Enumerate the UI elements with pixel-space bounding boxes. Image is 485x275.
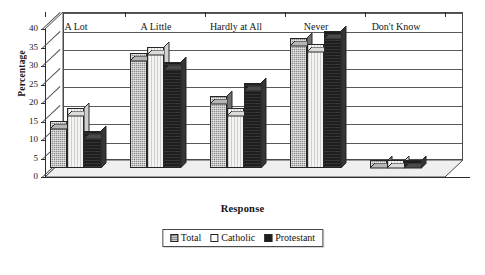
gridline [64, 69, 462, 70]
x-axis-label: Hardly at All [210, 21, 262, 32]
bar-front-face [130, 53, 147, 168]
bar-front-face [84, 131, 101, 168]
bar [84, 131, 101, 168]
legend-label: Total [181, 232, 201, 243]
swatch-catholic-icon [210, 234, 218, 242]
legend-item: Catholic [210, 232, 255, 243]
bar [387, 160, 404, 167]
y-axis-title: Percentage [18, 50, 32, 97]
bar [147, 47, 164, 167]
gridline [64, 87, 462, 88]
legend-label: Catholic [221, 232, 255, 243]
x-axis-label: Don't Know [372, 21, 421, 32]
bar-front-face [370, 160, 387, 167]
swatch-total-icon [170, 234, 178, 242]
y-axis-tick: 10 [41, 140, 46, 141]
bar [370, 160, 387, 167]
bar [290, 38, 307, 168]
x-axis-tick [45, 12, 46, 17]
y-axis-tick: 5 [41, 159, 46, 160]
x-axis-label: A Little [141, 21, 172, 32]
y-axis-tick-label: 35 [29, 42, 38, 52]
x-axis-tick [125, 12, 126, 17]
y-axis-tick-label: 30 [29, 60, 38, 70]
y-axis-tick: 20 [41, 103, 46, 104]
bar-front-face [387, 160, 404, 167]
swatch-protestant-icon [264, 234, 272, 242]
bar [227, 108, 244, 167]
y-axis-tick-label: 25 [29, 79, 38, 89]
y-axis-tick: 30 [41, 66, 46, 67]
x-axis-label: A Lot [64, 21, 87, 32]
bar [307, 44, 324, 168]
y-axis-tick-label: 5 [34, 153, 39, 163]
x-axis-tick [365, 12, 366, 17]
y-axis-tick: 15 [41, 122, 46, 123]
bar [404, 160, 421, 167]
bar-front-face [324, 31, 341, 168]
chart-screenshot: Percentage 0510152025303540 A LotA Littl… [0, 0, 485, 275]
bar [244, 83, 261, 168]
bar [164, 62, 181, 167]
y-axis-tick: 40 [41, 29, 46, 30]
x-axis-label: Never [304, 21, 328, 32]
bar [324, 31, 341, 168]
y-axis-tick-label: 15 [29, 116, 38, 126]
gridline [64, 124, 462, 125]
bar [67, 108, 84, 167]
y-axis-tick-label: 0 [34, 171, 39, 181]
y-axis-tick-label: 10 [29, 134, 38, 144]
y-axis-tick: 35 [41, 48, 46, 49]
gridline [64, 50, 462, 51]
bar-front-face [307, 44, 324, 168]
bar-front-face [164, 62, 181, 167]
bar-front-face [244, 83, 261, 168]
x-axis-tick [205, 12, 206, 17]
bar [50, 121, 67, 167]
plot-area: 0510152025303540 A LotA LittleHardly at … [45, 12, 470, 177]
legend-label: Protestant [275, 232, 315, 243]
y-axis-tick: 25 [41, 85, 46, 86]
gridline [64, 106, 462, 107]
gridline [64, 13, 462, 14]
bar [210, 96, 227, 168]
bar-front-face [147, 47, 164, 167]
legend-item: Total [170, 232, 201, 243]
x-axis-tick [285, 12, 286, 17]
x-axis-line [45, 177, 470, 178]
bar [130, 53, 147, 168]
x-axis-tick [445, 12, 446, 17]
y-axis-tick-label: 40 [29, 23, 38, 33]
bar-front-face [210, 96, 227, 168]
legend-item: Protestant [264, 232, 315, 243]
y-axis-tick-label: 20 [29, 97, 38, 107]
chart-legend: TotalCatholicProtestant [162, 229, 323, 247]
bar-front-face [50, 121, 67, 167]
gridline [64, 143, 462, 144]
bar-front-face [67, 108, 84, 167]
bar-front-face [404, 160, 421, 167]
chart-back-wall [63, 12, 463, 160]
x-axis-title: Response [0, 203, 485, 214]
bar-front-face [227, 108, 244, 167]
bar-front-face [290, 38, 307, 168]
